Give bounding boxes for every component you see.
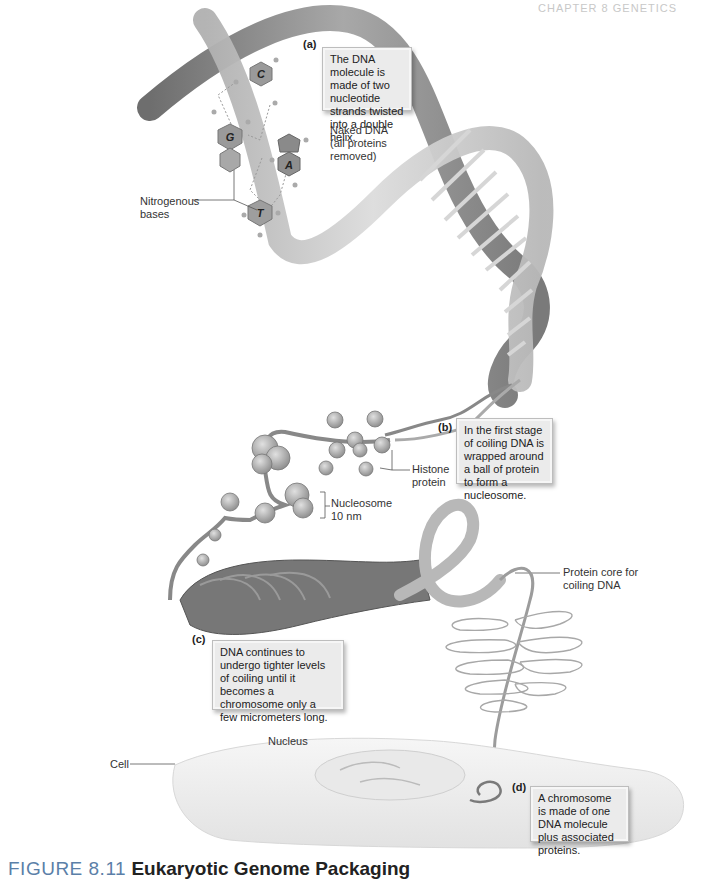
tag-c: (c) (192, 633, 205, 645)
chromatin-loops (446, 611, 582, 712)
label-naked-dna: Naked DNA (all proteins removed) (330, 124, 388, 163)
figure-caption: FIGURE 8.11 Eukaryotic Genome Packaging (8, 858, 410, 880)
label-protein-core: Protein core for coiling DNA (563, 566, 638, 592)
label-nitrogenous-bases: Nitrogenous bases (140, 195, 199, 221)
label-nucleus: Nucleus (268, 735, 308, 748)
callout-b: In the first stage of coiling DNA is wra… (456, 418, 553, 484)
label-cell: Cell (110, 758, 129, 771)
figure-title: Eukaryotic Genome Packaging (131, 858, 410, 879)
coiled-chromatin-fiber (180, 560, 430, 634)
base-g: G (226, 131, 235, 143)
figure-number: FIGURE 8.11 (8, 858, 126, 879)
base-c: C (257, 68, 266, 80)
base-a: A (284, 159, 293, 171)
tag-b: (b) (438, 421, 452, 433)
tag-a: (a) (303, 38, 316, 50)
callout-a: The DNA molecule is made of two nucleoti… (322, 47, 412, 111)
callout-c: DNA continues to undergo tighter levels … (212, 640, 344, 710)
label-nucleosome: Nucleosome 10 nm (331, 497, 392, 523)
nucleus-shape (315, 750, 465, 800)
callout-d: A chromosome is made of one DNA molecule… (530, 786, 629, 842)
tag-d: (d) (512, 781, 526, 793)
label-histone-protein: Histone protein (412, 463, 449, 489)
